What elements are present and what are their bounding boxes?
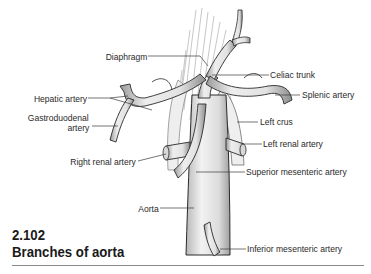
label-celiac-trunk: Celiac trunk — [270, 69, 315, 80]
label-gastroduodenal-artery-line2: artery — [67, 122, 89, 133]
label-left-renal-artery: Left renal artery — [263, 138, 323, 149]
figure-title: Branches of aorta — [12, 243, 124, 260]
label-right-renal-artery: Right renal artery — [70, 156, 136, 167]
label-aorta: Aorta — [139, 203, 159, 214]
diaphragm-arc — [152, 79, 172, 90]
label-left-crus: Left crus — [260, 116, 293, 127]
left-gastric-artery — [206, 40, 236, 80]
gastroduodenal-artery-vessel — [110, 98, 134, 142]
left-renal-artery-end — [240, 144, 246, 156]
label-splenic-artery: Splenic artery — [302, 89, 354, 100]
right-renal-artery-end — [163, 146, 169, 160]
diaphragm-arc-right — [244, 74, 262, 79]
caption-divider — [12, 265, 364, 266]
label-hepatic-artery: Hepatic artery — [34, 93, 87, 104]
figure-number: 2.102 — [12, 226, 45, 243]
label-inferior-mesenteric-artery: Inferior mesenteric artery — [247, 243, 342, 254]
aorta-branches-illustration — [0, 0, 371, 274]
label-superior-mesenteric-artery: Superior mesenteric artery — [246, 166, 347, 177]
label-diaphragm: Diaphragm — [105, 51, 147, 62]
